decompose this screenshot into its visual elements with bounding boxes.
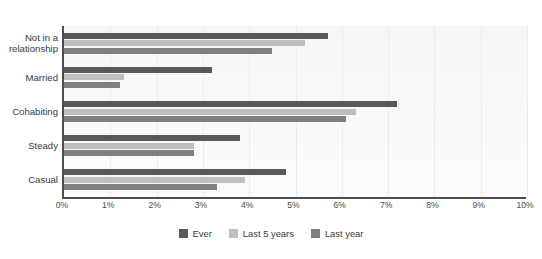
legend-item-last-year[interactable]: Last year (311, 228, 364, 239)
x-tick-label-0pct: 0% (56, 200, 68, 210)
bar-not-in-a-relationship-last-year (64, 48, 272, 54)
gridline (388, 26, 389, 197)
bar-not-in-a-relationship-ever (64, 33, 328, 39)
bar-casual-ever (64, 169, 286, 175)
gridline (434, 26, 435, 197)
x-tick-label-2pct: 2% (148, 200, 160, 210)
legend-swatch-last-5-years (229, 229, 238, 238)
category-label-steady: Steady (0, 140, 58, 151)
category-axis-labels: Not in arelationshipMarriedCohabitingSte… (0, 26, 58, 197)
legend-label-last-year: Last year (325, 228, 364, 239)
bar-casual-last-year (64, 184, 217, 190)
legend-item-last-5-years[interactable]: Last 5 years (229, 228, 294, 239)
x-tick-label-3pct: 3% (195, 200, 207, 210)
legend-label-ever: Ever (193, 228, 212, 239)
chart-legend: EverLast 5 yearsLast year (0, 228, 542, 239)
bar-cohabiting-last-year (64, 116, 346, 122)
bar-married-last-year (64, 82, 120, 88)
plot-area (62, 26, 527, 197)
category-label-casual: Casual (0, 174, 58, 185)
bar-steady-last-5-years (64, 143, 194, 149)
x-tick-label-1pct: 1% (102, 200, 114, 210)
bar-steady-last-year (64, 150, 194, 156)
legend-label-last-5-years: Last 5 years (243, 228, 294, 239)
x-tick-label-10pct: 10% (516, 200, 533, 210)
x-tick-label-5pct: 5% (287, 200, 299, 210)
bar-married-last-5-years (64, 74, 124, 80)
legend-swatch-last-year (311, 229, 320, 238)
x-tick-label-6pct: 6% (334, 200, 346, 210)
bar-cohabiting-last-5-years (64, 109, 356, 115)
bar-steady-ever (64, 135, 240, 141)
bar-married-ever (64, 67, 212, 73)
figure-container: Figure 1: Proportion of people reporting… (0, 0, 542, 259)
gridline (481, 26, 482, 197)
bar-casual-last-5-years (64, 177, 245, 183)
bar-cohabiting-ever (64, 101, 397, 107)
gridline (527, 26, 528, 197)
x-tick-label-8pct: 8% (426, 200, 438, 210)
category-label-not-in-a-relationship: Not in arelationship (0, 32, 58, 54)
category-label-cohabiting: Cohabiting (0, 106, 58, 117)
figure-title: Figure 1: Proportion of people reporting… (4, 0, 538, 5)
legend-swatch-ever (179, 229, 188, 238)
legend-item-ever[interactable]: Ever (179, 228, 212, 239)
x-tick-label-9pct: 9% (472, 200, 484, 210)
bar-not-in-a-relationship-last-5-years (64, 40, 305, 46)
x-tick-label-4pct: 4% (241, 200, 253, 210)
category-label-married: Married (0, 72, 58, 83)
x-axis-line (62, 197, 526, 199)
x-tick-label-7pct: 7% (380, 200, 392, 210)
